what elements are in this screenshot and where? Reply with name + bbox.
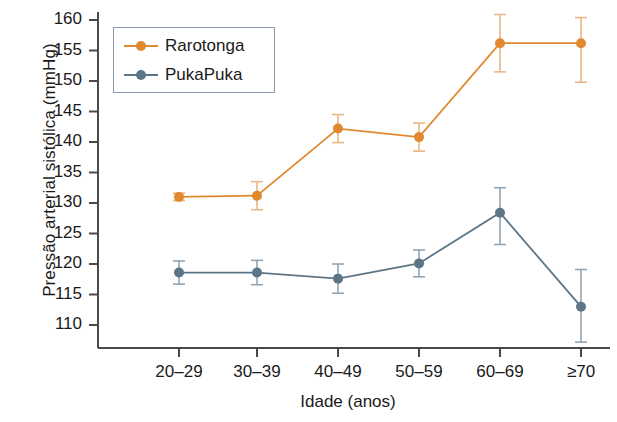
y-tick-label: 150 (34, 70, 82, 90)
y-tick-label: 120 (34, 253, 82, 273)
x-tick-label: ≥70 (536, 362, 617, 382)
chart-legend: Rarotonga PukaPuka (113, 27, 275, 93)
y-tick-label: 130 (34, 192, 82, 212)
legend-marker-pukapuka (124, 68, 158, 82)
legend-marker-rarotonga (124, 39, 158, 53)
x-tick-label: 60–69 (455, 362, 545, 382)
y-axis-ticks (89, 20, 98, 325)
y-tick-label: 135 (34, 162, 82, 182)
data-point (174, 268, 184, 278)
plot-area (0, 0, 617, 422)
y-tick-label: 110 (34, 314, 82, 334)
legend-item-pukapuka: PukaPuka (124, 61, 243, 89)
x-tick-label: 20–29 (134, 362, 224, 382)
y-tick-label: 160 (34, 9, 82, 29)
y-tick-label: 115 (34, 284, 82, 304)
data-point (333, 124, 343, 134)
legend-label-pukapuka: PukaPuka (165, 65, 243, 85)
data-point (576, 38, 586, 48)
x-tick-label: 50–59 (374, 362, 464, 382)
data-point (576, 302, 586, 312)
data-point (495, 38, 505, 48)
data-point (174, 192, 184, 202)
chart-figure: Pressão arterial sistólica (mmHg) Idade … (0, 0, 617, 422)
y-tick-label: 145 (34, 101, 82, 121)
y-tick-label: 125 (34, 223, 82, 243)
data-point (333, 274, 343, 284)
legend-item-rarotonga: Rarotonga (124, 32, 244, 60)
x-tick-label: 40–49 (293, 362, 383, 382)
data-point (252, 191, 262, 201)
y-tick-label: 140 (34, 131, 82, 151)
data-point (252, 268, 262, 278)
data-point (414, 258, 424, 268)
y-tick-label: 155 (34, 40, 82, 60)
series-pukapuka (173, 188, 587, 342)
x-tick-label: 30–39 (212, 362, 302, 382)
data-point (414, 132, 424, 142)
data-point (495, 208, 505, 218)
legend-label-rarotonga: Rarotonga (165, 36, 244, 56)
x-axis-ticks (179, 348, 581, 357)
